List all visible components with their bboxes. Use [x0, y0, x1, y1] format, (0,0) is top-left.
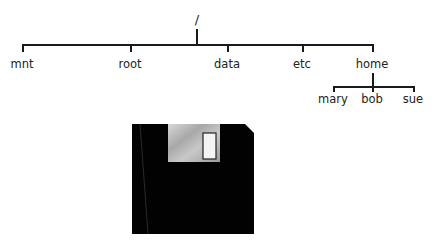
level1-branch-line: [22, 44, 373, 46]
home-branch-line: [333, 86, 414, 88]
tree-root-label: /: [195, 12, 199, 27]
tree-node-bob: bob: [361, 93, 383, 106]
tree-node-etc: etc: [293, 58, 311, 71]
root-connector: [196, 29, 198, 44]
tree-node-data: data: [214, 58, 240, 71]
tree-node-home: home: [356, 58, 389, 71]
connector-root: [130, 44, 132, 52]
floppy-disk-icon: [132, 124, 254, 234]
connector-data: [227, 44, 229, 52]
connector-home: [372, 44, 374, 52]
connector-etc: [302, 44, 304, 52]
tree-node-sue: sue: [403, 93, 423, 106]
tree-node-mnt: mnt: [11, 58, 34, 71]
tree-node-mary: mary: [318, 93, 348, 106]
tree-node-root: root: [118, 58, 141, 71]
connector-mnt: [22, 44, 24, 52]
home-connector: [372, 73, 374, 87]
